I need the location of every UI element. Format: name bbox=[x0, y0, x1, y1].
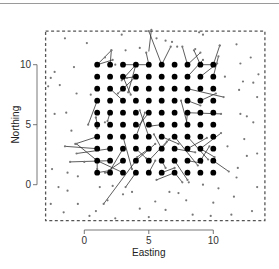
random-point bbox=[256, 186, 258, 188]
random-point bbox=[106, 199, 108, 201]
random-point bbox=[104, 121, 106, 123]
random-point bbox=[210, 215, 212, 217]
grid-point bbox=[210, 170, 216, 176]
grid-point bbox=[94, 170, 100, 176]
grid-point bbox=[172, 122, 178, 128]
random-point bbox=[63, 211, 65, 213]
link-line bbox=[104, 161, 136, 204]
grid-point bbox=[172, 62, 178, 68]
grid-point bbox=[94, 134, 100, 140]
link-lines bbox=[64, 29, 230, 205]
grid-point bbox=[120, 86, 126, 92]
grid-point bbox=[107, 170, 113, 176]
grid-point bbox=[210, 86, 216, 92]
linked-point bbox=[153, 133, 155, 135]
grid-point bbox=[185, 74, 191, 80]
random-point bbox=[252, 121, 254, 123]
random-point bbox=[243, 138, 245, 140]
grid-point bbox=[120, 146, 126, 152]
linked-point bbox=[148, 30, 150, 32]
random-point bbox=[202, 34, 204, 36]
y-axis-title: Northing bbox=[10, 106, 21, 144]
grid-point bbox=[133, 158, 139, 164]
random-point bbox=[155, 37, 157, 39]
random-point bbox=[235, 43, 237, 45]
random-point bbox=[188, 181, 190, 183]
link-line bbox=[188, 89, 224, 97]
grid-point bbox=[172, 170, 178, 176]
grid-point bbox=[146, 62, 152, 68]
random-point bbox=[77, 203, 79, 205]
grid-point bbox=[120, 134, 126, 140]
random-point bbox=[50, 203, 52, 205]
linked-point bbox=[69, 161, 71, 163]
random-point bbox=[59, 84, 61, 86]
linked-point bbox=[87, 124, 89, 126]
random-point bbox=[164, 209, 166, 211]
grid-point bbox=[198, 146, 204, 152]
random-point bbox=[235, 176, 237, 178]
random-point bbox=[54, 113, 56, 115]
linked-point bbox=[220, 132, 222, 134]
linked-point bbox=[180, 100, 182, 102]
grid-point bbox=[198, 110, 204, 116]
linked-point bbox=[199, 104, 201, 106]
link-line bbox=[70, 161, 110, 162]
linked-point bbox=[170, 46, 172, 48]
random-point bbox=[139, 208, 141, 210]
random-point bbox=[112, 185, 114, 187]
grid-point bbox=[172, 146, 178, 152]
grid-point bbox=[94, 62, 100, 68]
grid-point bbox=[159, 98, 165, 104]
y-axis-ticks: 0510 bbox=[20, 59, 37, 190]
random-point bbox=[176, 46, 178, 48]
grid-point bbox=[172, 158, 178, 164]
y-tick-label: 0 bbox=[25, 179, 31, 190]
random-point bbox=[121, 34, 123, 36]
linked-point bbox=[206, 137, 208, 139]
grid-point bbox=[120, 74, 126, 80]
linked-point bbox=[154, 143, 156, 145]
random-point bbox=[104, 56, 106, 58]
y-axis: 0510 Northing bbox=[10, 59, 37, 190]
random-point bbox=[99, 186, 101, 188]
random-point bbox=[246, 155, 248, 157]
random-point bbox=[192, 214, 194, 216]
link-line bbox=[149, 142, 167, 161]
linked-point bbox=[208, 145, 210, 147]
grid-point bbox=[198, 158, 204, 164]
y-tick-label: 5 bbox=[25, 119, 31, 130]
grid-point bbox=[107, 86, 113, 92]
random-point bbox=[47, 85, 49, 87]
grid-point bbox=[185, 134, 191, 140]
linked-point bbox=[117, 92, 119, 94]
grid-point bbox=[159, 74, 165, 80]
random-point bbox=[226, 145, 228, 147]
study-region-frame bbox=[46, 31, 265, 221]
grid-point bbox=[198, 62, 204, 68]
random-point bbox=[194, 48, 196, 50]
random-point bbox=[252, 82, 254, 84]
random-point bbox=[66, 190, 68, 192]
grid-point bbox=[94, 158, 100, 164]
grid-point bbox=[120, 98, 126, 104]
grid-point bbox=[159, 158, 165, 164]
grid-point bbox=[172, 86, 178, 92]
grid-point bbox=[198, 86, 204, 92]
x-axis: 0510 Easting bbox=[82, 230, 220, 258]
grid-point bbox=[94, 146, 100, 152]
link-line bbox=[162, 47, 171, 65]
grid-point bbox=[159, 122, 165, 128]
random-point bbox=[90, 94, 92, 96]
grid-point bbox=[198, 170, 204, 176]
linked-point bbox=[106, 120, 108, 122]
grid-point bbox=[107, 62, 113, 68]
linked-point bbox=[150, 29, 152, 31]
grid-point bbox=[120, 122, 126, 128]
grid-point bbox=[146, 170, 152, 176]
random-point bbox=[230, 214, 232, 216]
random-point bbox=[171, 41, 173, 43]
link-line bbox=[123, 137, 132, 169]
random-point bbox=[239, 62, 241, 64]
linked-point bbox=[202, 59, 204, 61]
